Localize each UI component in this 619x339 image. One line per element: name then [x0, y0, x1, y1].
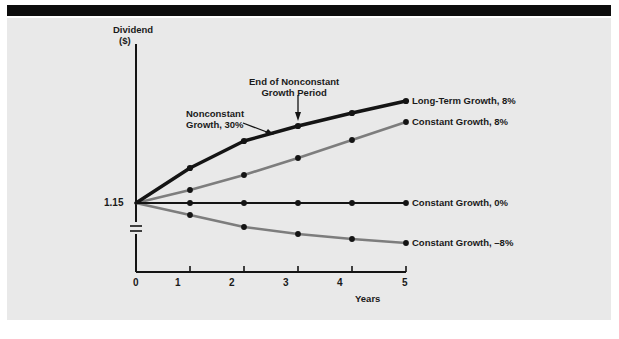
y-axis-unit-label: ($) — [119, 35, 131, 46]
data-point-marker — [403, 200, 409, 206]
series-label-long-term-growth-8: Long-Term Growth, 8% — [412, 95, 516, 106]
data-point-marker — [241, 138, 247, 144]
annotation-nonconstant-growth-line-1: Nonconstant — [186, 108, 244, 119]
data-point-marker — [241, 224, 247, 230]
data-point-marker — [349, 200, 355, 206]
x-tick-label-4: 4 — [337, 277, 343, 289]
chart-plot-area — [0, 0, 619, 339]
data-point-marker — [241, 172, 247, 178]
x-tick-label-2: 2 — [229, 277, 235, 289]
data-point-marker — [349, 236, 355, 242]
data-point-marker — [187, 200, 193, 206]
annotation-end-period-line-1: End of Nonconstant — [249, 76, 339, 87]
data-point-marker — [403, 240, 409, 246]
x-tick-label-1: 1 — [175, 277, 181, 289]
annotation-nonconstant-growth: Nonconstant Growth, 30% — [186, 108, 244, 130]
data-point-marker — [349, 137, 355, 143]
annotation-end-of-nonconstant-growth-period: End of Nonconstant Growth Period — [249, 76, 339, 98]
series-line-constant-growth-neg8 — [136, 203, 406, 243]
data-point-marker — [187, 165, 193, 171]
series-label-constant-growth-0: Constant Growth, 0% — [412, 197, 508, 208]
series-label-constant-growth-8: Constant Growth, 8% — [412, 116, 508, 127]
data-point-marker — [403, 119, 409, 125]
data-point-marker — [187, 212, 193, 218]
y-axis-base-value-label: 1.15 — [104, 197, 123, 209]
data-point-marker — [295, 231, 301, 237]
data-point-marker — [241, 200, 247, 206]
figure-container: Dividend ($) 1.15 Years 0 1 2 3 4 5 Long… — [0, 0, 619, 339]
x-tick-label-0: 0 — [133, 277, 139, 289]
annotation-end-period-line-2: Growth Period — [249, 87, 339, 98]
series-line-long-term-growth-8 — [136, 101, 406, 203]
data-point-marker — [349, 110, 355, 116]
data-point-marker — [295, 200, 301, 206]
data-point-marker — [403, 98, 409, 104]
data-point-marker — [187, 187, 193, 193]
x-tick-label-5: 5 — [402, 277, 408, 289]
annotation-nonconstant-growth-line-2: Growth, 30% — [186, 119, 244, 130]
data-point-marker — [295, 155, 301, 161]
annotation-arrowhead-end-period — [295, 112, 301, 121]
x-axis-title: Years — [355, 293, 380, 304]
y-axis-title: Dividend — [113, 24, 153, 35]
data-point-marker — [295, 123, 301, 129]
series-label-constant-growth-neg8: Constant Growth, –8% — [412, 237, 513, 248]
x-tick-label-3: 3 — [283, 277, 289, 289]
